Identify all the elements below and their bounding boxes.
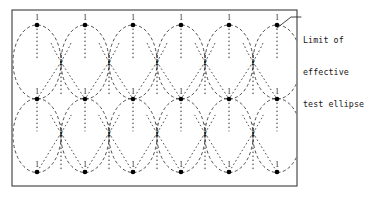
pole-label-middle-1: 1 [83,87,87,96]
pole-label-bottom-1: 1 [83,160,87,169]
pole-label-middle-3: 1 [179,87,183,96]
cusp-label-top-2: 2 [155,58,159,67]
pole-dot-middle-0 [35,97,40,102]
cusp-label-bottom-4: 2 [251,129,255,138]
pole-label-top-2: 1 [131,13,135,22]
pole-label-middle-5: 1 [275,87,279,96]
pole-dot-bottom-5 [275,170,280,175]
pole-label-middle-0: 1 [35,87,39,96]
pole-label-bottom-0: 1 [35,160,39,169]
figure-root: 1111111111111111112222222222 Limit of ef… [0,0,375,217]
cusp-label-bottom-2: 2 [155,129,159,138]
pole-dot-middle-1 [83,97,88,102]
pole-label-bottom-3: 1 [179,160,183,169]
cusp-label-bottom-3: 2 [203,129,207,138]
pole-label-bottom-4: 1 [227,160,231,169]
pole-dot-top-3 [179,23,184,28]
pole-label-top-0: 1 [35,13,39,22]
pole-dot-middle-3 [179,97,184,102]
pole-dot-bottom-4 [227,170,232,175]
pole-dot-middle-2 [131,97,136,102]
pole-label-bottom-2: 1 [131,160,135,169]
pole-dot-bottom-0 [35,170,40,175]
annotation-line-2: effective [303,67,364,78]
pole-dot-bottom-2 [131,170,136,175]
pole-label-top-4: 1 [227,13,231,22]
pole-dot-bottom-1 [83,170,88,175]
cusp-label-top-0: 2 [59,58,63,67]
pole-dot-top-1 [83,23,88,28]
cusp-label-top-1: 2 [107,58,111,67]
pole-dot-middle-4 [227,97,232,102]
annotation-line-1: Limit of [303,35,364,46]
pole-dot-top-4 [227,23,232,28]
cusp-label-top-3: 2 [203,58,207,67]
cusp-label-bottom-0: 2 [59,129,63,138]
annotation-text-block: Limit of effective test ellipse [303,14,364,131]
cusp-label-bottom-1: 2 [107,129,111,138]
pole-label-top-1: 1 [83,13,87,22]
pole-label-top-3: 1 [179,13,183,22]
pole-label-middle-2: 1 [131,87,135,96]
pole-dot-bottom-3 [179,170,184,175]
pole-label-middle-4: 1 [227,87,231,96]
pole-label-bottom-5: 1 [275,160,279,169]
pole-dot-top-0 [35,23,40,28]
annotation-line-3: test ellipse [303,99,364,110]
cusp-label-top-4: 2 [251,58,255,67]
pole-dot-middle-5 [275,97,280,102]
pole-dot-top-2 [131,23,136,28]
pole-label-top-5: 1 [275,13,279,22]
